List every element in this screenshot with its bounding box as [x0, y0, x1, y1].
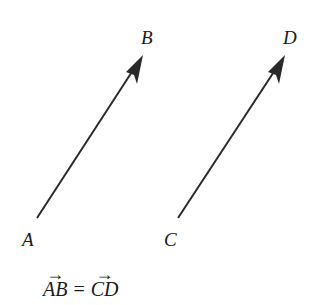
vector-arrow-icon: → — [46, 264, 64, 285]
equals-sign: = — [73, 278, 84, 301]
vector-cd-notation: → CD — [91, 266, 119, 301]
label-b: B — [141, 28, 153, 47]
vector-ab-notation: → AB — [43, 266, 67, 301]
arrowhead-icon — [268, 55, 285, 84]
vector-arrow-icon: → — [96, 264, 114, 285]
vector-cd — [178, 55, 285, 218]
vector-ab — [37, 55, 143, 218]
label-d: D — [283, 28, 297, 47]
vector-diagram — [0, 0, 310, 305]
label-c: C — [164, 230, 177, 249]
label-a: A — [22, 230, 34, 249]
vector-equation: → AB = → CD — [43, 266, 119, 301]
arrowhead-icon — [126, 55, 143, 84]
